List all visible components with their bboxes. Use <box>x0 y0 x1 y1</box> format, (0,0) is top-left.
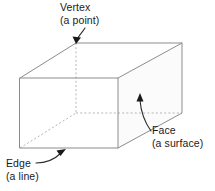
vertex-label-line1: Vertex <box>60 1 91 13</box>
edge-leader-line <box>36 153 61 163</box>
edge-label-line2: (a line) <box>6 170 39 182</box>
edge-arrow-head <box>57 149 67 156</box>
front-face-shading <box>20 78 118 148</box>
cuboid-figure: Vertex (a point) Face (a surface) Edge (… <box>0 0 215 191</box>
face-label-line1: Face <box>152 124 176 136</box>
vertex-label-line2: (a point) <box>60 14 99 26</box>
edge-label-line1: Edge <box>6 157 31 169</box>
diagram-canvas: Vertex (a point) Face (a surface) Edge (… <box>0 0 215 191</box>
face-label-line2: (a surface) <box>152 137 203 149</box>
